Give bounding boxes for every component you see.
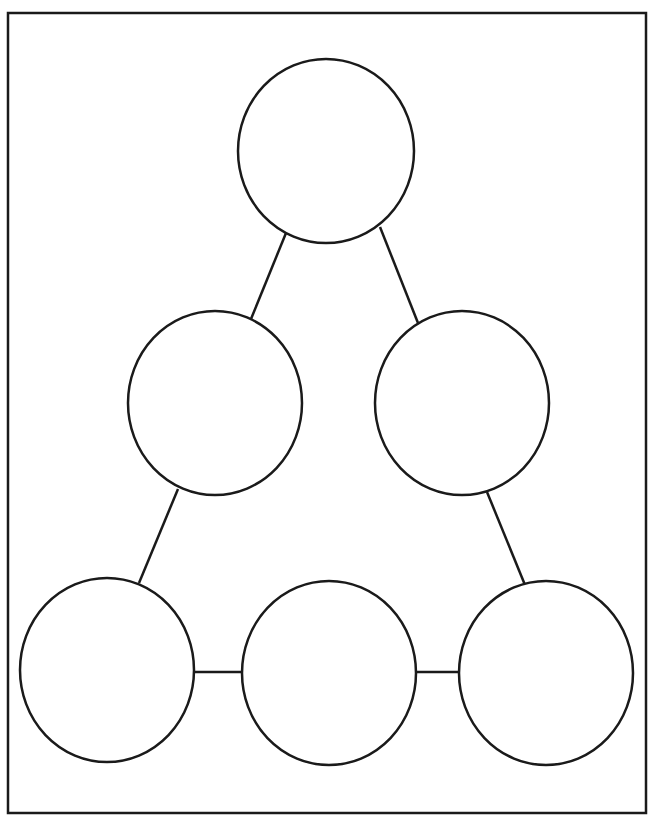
node-bottom-middle (242, 581, 416, 765)
node-bottom-left (20, 578, 194, 762)
node-middle-left (128, 311, 302, 495)
node-circle (238, 59, 414, 243)
edge-top-to-middle-left (251, 233, 286, 319)
node-circle (242, 581, 416, 765)
nodes-group (20, 59, 633, 765)
node-bottom-right (459, 581, 633, 765)
node-circle (459, 581, 633, 765)
edge-top-to-middle-right (380, 227, 418, 323)
node-middle-right (375, 311, 549, 495)
node-circle (20, 578, 194, 762)
edge-middle-right-to-bottom-right (487, 492, 525, 585)
node-top (238, 59, 414, 243)
node-circle (128, 311, 302, 495)
node-circle (375, 311, 549, 495)
diagram-canvas (0, 0, 654, 822)
edge-middle-left-to-bottom-left (139, 489, 178, 583)
